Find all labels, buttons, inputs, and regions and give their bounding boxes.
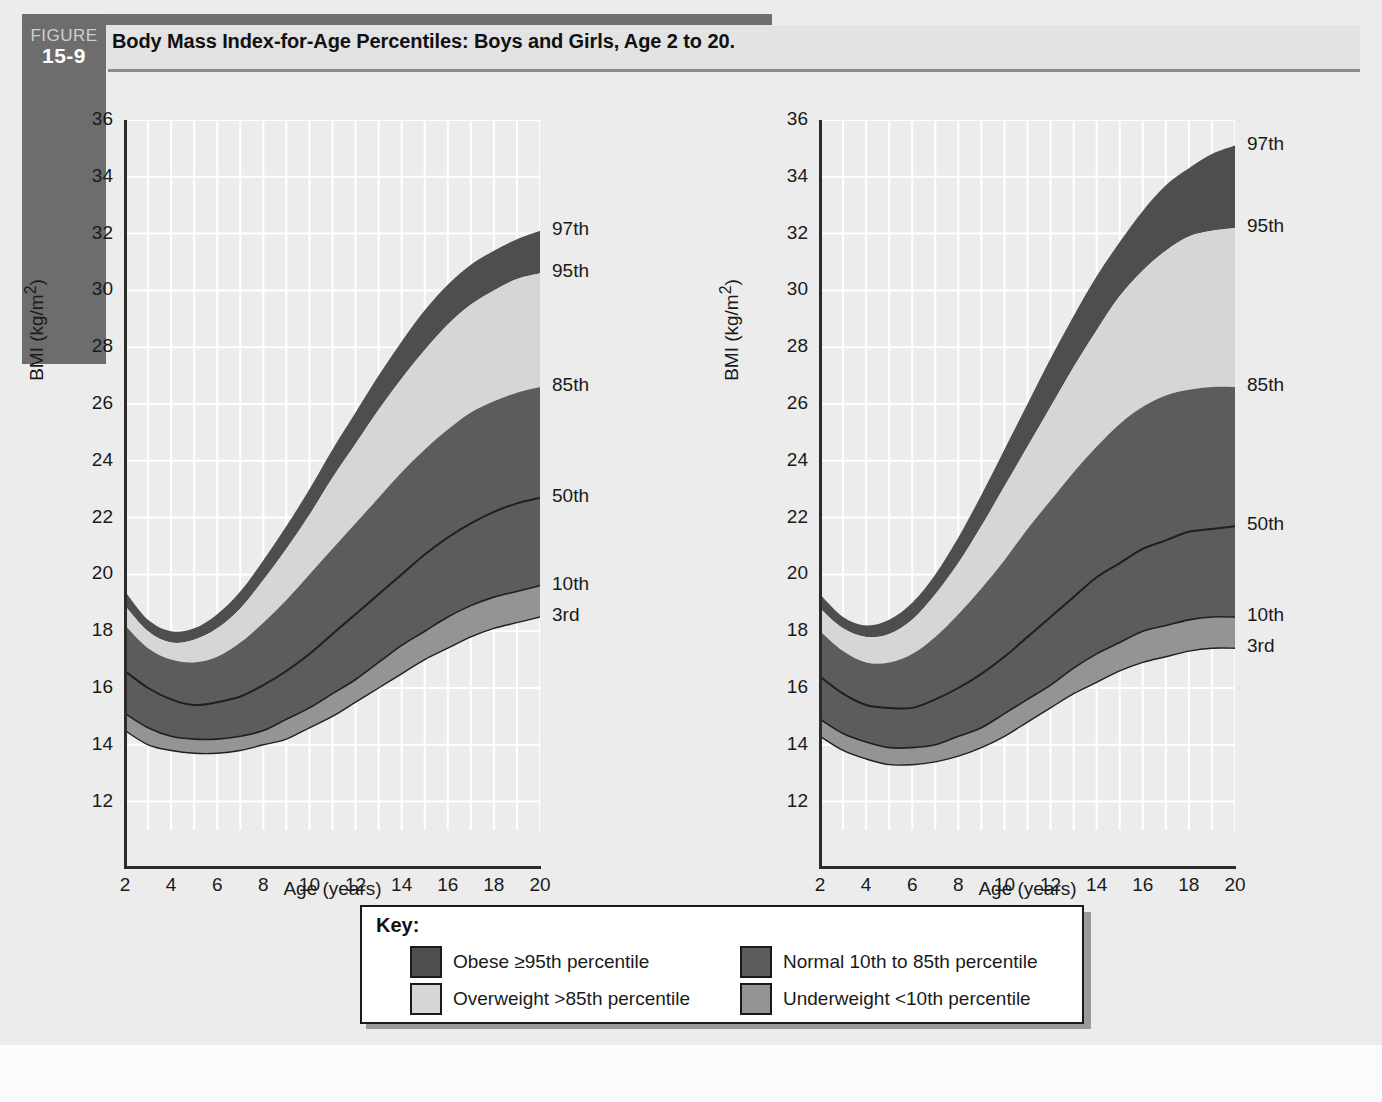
- y-tick-label: 26: [762, 392, 808, 414]
- y-tick-label: 36: [762, 108, 808, 130]
- key-swatch: [410, 983, 442, 1015]
- x-tick-label: 6: [892, 874, 932, 896]
- x-tick-label: 16: [428, 874, 468, 896]
- header-rule: [108, 69, 1360, 72]
- y-tick-label: 12: [762, 790, 808, 812]
- x-tick-label: 4: [151, 874, 191, 896]
- x-tick-label: 14: [382, 874, 422, 896]
- key-box: Key: Obese ≥95th percentileNormal 10th t…: [360, 905, 1084, 1024]
- percentile-label-85th: 85th: [552, 374, 589, 396]
- y-tick-label: 30: [762, 278, 808, 300]
- percentile-label-95th: 95th: [552, 260, 589, 282]
- key-entries: Obese ≥95th percentileNormal 10th to 85t…: [410, 943, 1070, 1017]
- x-tick-label: 2: [800, 874, 840, 896]
- key-entry: Obese ≥95th percentile: [410, 946, 740, 978]
- y-tick-label: 14: [762, 733, 808, 755]
- x-tick-label: 8: [938, 874, 978, 896]
- y-tick-label: 34: [67, 165, 113, 187]
- key-entry: Underweight <10th percentile: [740, 983, 1070, 1015]
- key-label: Overweight >85th percentile: [453, 988, 690, 1010]
- y-tick-label: 12: [67, 790, 113, 812]
- chart-girls: Body mass index-for-age percentiles: Gir…: [725, 110, 1325, 900]
- x-axis-line: [819, 866, 1236, 869]
- y-tick-label: 32: [67, 222, 113, 244]
- key-entry: Normal 10th to 85th percentile: [740, 946, 1070, 978]
- percentile-label-10th: 10th: [552, 573, 589, 595]
- x-tick-label: 6: [197, 874, 237, 896]
- x-tick-label: 18: [1169, 874, 1209, 896]
- y-tick-label: 34: [762, 165, 808, 187]
- figure-badge: FIGURE 15-9: [22, 14, 106, 80]
- key-label: Underweight <10th percentile: [783, 988, 1031, 1010]
- key-label: Normal 10th to 85th percentile: [783, 951, 1038, 973]
- x-tick-label: 18: [474, 874, 514, 896]
- y-tick-label: 14: [67, 733, 113, 755]
- key-row: Overweight >85th percentileUnderweight <…: [410, 980, 1070, 1017]
- percentile-label-50th: 50th: [1247, 513, 1284, 535]
- percentile-label-3rd: 3rd: [1247, 635, 1274, 657]
- y-tick-label: 36: [67, 108, 113, 130]
- percentile-label-95th: 95th: [1247, 215, 1284, 237]
- figure-title: Body Mass Index-for-Age Percentiles: Boy…: [112, 30, 735, 53]
- x-tick-label: 12: [336, 874, 376, 896]
- y-axis-line: [124, 120, 127, 868]
- figure-badge-word: FIGURE: [30, 27, 97, 45]
- page-bottom-margin: [0, 1045, 1382, 1102]
- key-label: Obese ≥95th percentile: [453, 951, 649, 973]
- plot-area-girls: [820, 120, 1235, 830]
- y-tick-label: 16: [67, 676, 113, 698]
- key-entry: Overweight >85th percentile: [410, 983, 740, 1015]
- plot-svg-girls: [820, 120, 1235, 830]
- x-tick-label: 10: [984, 874, 1024, 896]
- x-tick-label: 20: [1215, 874, 1255, 896]
- y-axis-line: [819, 120, 822, 868]
- x-tick-label: 10: [289, 874, 329, 896]
- y-axis-label-boys: BMI (kg/m2): [22, 250, 48, 410]
- x-tick-label: 20: [520, 874, 560, 896]
- y-tick-label: 22: [67, 506, 113, 528]
- x-tick-label: 8: [243, 874, 283, 896]
- x-axis-line: [124, 866, 541, 869]
- key-title: Key:: [376, 914, 419, 937]
- key-swatch: [740, 946, 772, 978]
- plot-svg-boys: [125, 120, 540, 830]
- y-tick-label: 32: [762, 222, 808, 244]
- percentile-label-50th: 50th: [552, 485, 589, 507]
- percentile-label-97th: 97th: [1247, 133, 1284, 155]
- figure-page: FIGURE 15-9 Body Mass Index-for-Age Perc…: [0, 0, 1382, 1102]
- y-tick-label: 24: [762, 449, 808, 471]
- y-tick-label: 26: [67, 392, 113, 414]
- figure-badge-number: 15-9: [42, 45, 86, 67]
- x-tick-label: 12: [1031, 874, 1071, 896]
- percentile-label-97th: 97th: [552, 218, 589, 240]
- y-tick-label: 18: [67, 619, 113, 641]
- y-tick-label: 22: [762, 506, 808, 528]
- percentile-label-85th: 85th: [1247, 374, 1284, 396]
- percentile-label-10th: 10th: [1247, 604, 1284, 626]
- x-tick-label: 2: [105, 874, 145, 896]
- chart-boys: Body mass index-for-age percentiles: Boy…: [30, 110, 630, 900]
- y-axis-label-girls: BMI (kg/m2): [717, 250, 743, 410]
- key-row: Obese ≥95th percentileNormal 10th to 85t…: [410, 943, 1070, 980]
- y-tick-label: 30: [67, 278, 113, 300]
- y-tick-label: 20: [762, 562, 808, 584]
- x-tick-label: 14: [1077, 874, 1117, 896]
- y-tick-label: 28: [67, 335, 113, 357]
- key-swatch: [740, 983, 772, 1015]
- y-tick-label: 28: [762, 335, 808, 357]
- key-swatch: [410, 946, 442, 978]
- y-tick-label: 24: [67, 449, 113, 471]
- y-tick-label: 20: [67, 562, 113, 584]
- y-tick-label: 16: [762, 676, 808, 698]
- percentile-label-3rd: 3rd: [552, 604, 579, 626]
- plot-area-boys: [125, 120, 540, 830]
- x-tick-label: 16: [1123, 874, 1163, 896]
- y-tick-label: 18: [762, 619, 808, 641]
- x-tick-label: 4: [846, 874, 886, 896]
